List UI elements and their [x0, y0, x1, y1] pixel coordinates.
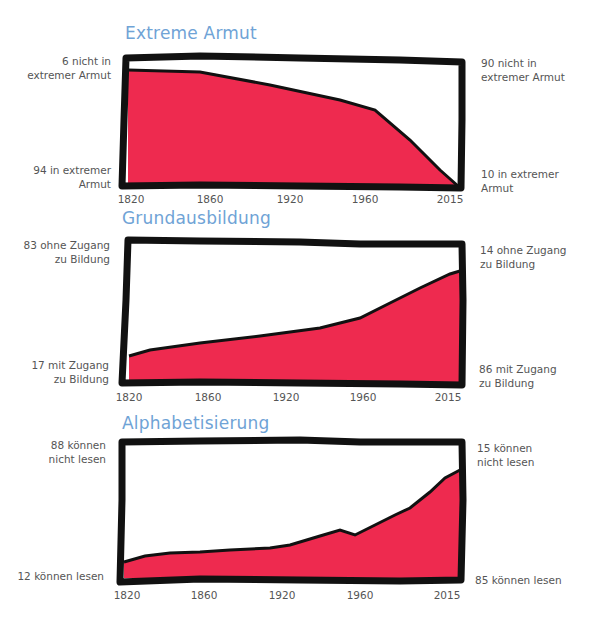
label-line: 90 nicht in	[481, 56, 565, 70]
x-tick: 1960	[350, 391, 377, 403]
label-line: zu Bildung	[480, 257, 567, 271]
left-bottom-label-extreme-armut: 94 in extremer Armut	[33, 163, 111, 191]
left-bottom-label-grundausbildung: 17 mit Zugang zu Bildung	[31, 358, 109, 386]
label-line: extremer Armut	[481, 70, 565, 84]
label-line: 83 ohne Zugang	[24, 238, 111, 252]
left-top-label-extreme-armut: 6 nicht in extremer Armut	[27, 54, 111, 82]
right-bottom-label-alphabetisierung: 85 können lesen	[475, 573, 562, 587]
label-line: 6 nicht in	[27, 54, 111, 68]
x-tick: 1920	[277, 193, 304, 205]
label-line: zu Bildung	[24, 252, 111, 266]
right-bottom-label-grundausbildung: 86 mit Zugang zu Bildung	[479, 362, 557, 390]
right-bottom-label-extreme-armut: 10 in extremer Armut	[481, 167, 559, 195]
label-line: 15 können	[477, 441, 534, 455]
x-tick: 1960	[347, 589, 374, 601]
charts-canvas	[0, 0, 591, 633]
x-tick: 1820	[118, 193, 145, 205]
chart-title-alphabetisierung: Alphabetisierung	[122, 413, 270, 433]
label-line: zu Bildung	[479, 376, 557, 390]
x-tick: 1820	[114, 589, 141, 601]
left-bottom-label-alphabetisierung: 12 können lesen	[17, 569, 104, 583]
area-fill-extreme-armut	[128, 70, 458, 186]
label-line: Armut	[33, 177, 111, 191]
chart-alphabetisierung	[120, 440, 463, 582]
label-line: 86 mit Zugang	[479, 362, 557, 376]
label-line: nicht lesen	[49, 452, 106, 466]
x-tick: 1920	[269, 589, 296, 601]
label-line: nicht lesen	[477, 455, 534, 469]
left-top-label-alphabetisierung: 88 können nicht lesen	[49, 438, 106, 466]
right-top-label-extreme-armut: 90 nicht in extremer Armut	[481, 56, 565, 84]
label-line: 94 in extremer	[33, 163, 111, 177]
label-line: 14 ohne Zugang	[480, 243, 567, 257]
x-tick: 1860	[191, 589, 218, 601]
right-top-label-grundausbildung: 14 ohne Zugang zu Bildung	[480, 243, 567, 271]
right-top-label-alphabetisierung: 15 können nicht lesen	[477, 441, 534, 469]
chart-grundausbildung	[122, 240, 463, 385]
label-line: extremer Armut	[27, 68, 111, 82]
x-tick: 1820	[116, 391, 143, 403]
label-line: 85 können lesen	[475, 573, 562, 587]
label-line: zu Bildung	[31, 372, 109, 386]
left-top-label-grundausbildung: 83 ohne Zugang zu Bildung	[24, 238, 111, 266]
area-fill-alphabetisierung	[124, 470, 460, 578]
label-line: 17 mit Zugang	[31, 358, 109, 372]
area-fill-grundausbildung	[129, 271, 460, 382]
x-tick: 2015	[437, 193, 464, 205]
chart-title-grundausbildung: Grundausbildung	[122, 208, 271, 228]
x-tick: 1960	[352, 193, 379, 205]
label-line: 12 können lesen	[17, 569, 104, 583]
chart-title-extreme-armut: Extreme Armut	[125, 23, 257, 43]
chart-extreme-armut	[122, 56, 462, 188]
x-tick: 1920	[273, 391, 300, 403]
x-tick: 1860	[197, 193, 224, 205]
x-tick: 2015	[434, 589, 461, 601]
x-tick: 1860	[195, 391, 222, 403]
label-line: 10 in extremer	[481, 167, 559, 181]
label-line: 88 können	[49, 438, 106, 452]
x-tick: 2015	[435, 391, 462, 403]
label-line: Armut	[481, 181, 559, 195]
